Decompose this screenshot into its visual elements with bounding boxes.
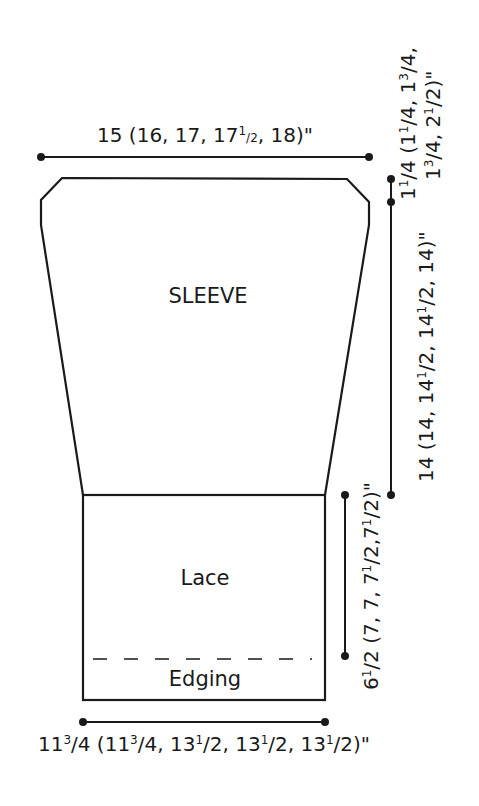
cap-depth-label-line1: 11/4 (11/4, 13/4, <box>396 47 420 200</box>
sleeve-schematic: SLEEVE Lace Edging 15 (16, 17, 171/2, 18… <box>0 0 479 806</box>
sleeve-length-label: 14 (14, 141/2, 141/2, 14)" <box>414 231 438 482</box>
sleeve-length-dimension: 14 (14, 141/2, 141/2, 14)" <box>387 202 438 499</box>
cap-depth-label-line2: 13/4, 21/2)" <box>421 71 445 180</box>
lace-label: Lace <box>180 566 229 590</box>
edging-label: Edging <box>169 667 241 691</box>
lace-length-dimension: 61/2 (7, 7, 71/2,71/2)" <box>341 482 383 690</box>
lace-length-label: 61/2 (7, 7, 71/2,71/2)" <box>359 482 383 690</box>
top-width-dimension: 15 (16, 17, 171/2, 18)" <box>37 123 373 161</box>
sleeve-label: SLEEVE <box>168 284 247 308</box>
sleeve-outline <box>41 178 369 495</box>
cap-depth-dimension: 11/4 (11/4, 13/4, 13/4, 21/2)" <box>387 47 445 206</box>
top-width-label: 15 (16, 17, 171/2, 18)" <box>97 123 313 147</box>
bottom-width-label: 113/4 (113/4, 131/2, 131/2, 131/2)" <box>38 732 370 756</box>
bottom-width-dimension: 113/4 (113/4, 131/2, 131/2, 131/2)" <box>38 718 370 756</box>
